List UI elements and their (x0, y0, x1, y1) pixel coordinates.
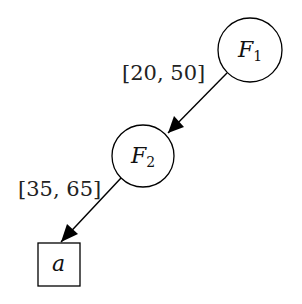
leaf-node-a: a (38, 243, 80, 286)
node-f2: F2 (112, 125, 174, 187)
leaf-node-a-label: a (52, 251, 65, 276)
edge-label-f2-a: [35, 65] (18, 177, 101, 201)
node-f2-label: F (130, 143, 147, 168)
edge-f1-f2: [20, 50] (122, 61, 227, 133)
node-f1: F1 (218, 18, 282, 82)
node-f1-label: F (237, 37, 254, 62)
decision-tree-diagram: [20, 50] [35, 65] F1 F2 a (0, 0, 302, 304)
edge-label-f1-f2: [20, 50] (122, 61, 205, 85)
edge-f2-a: [35, 65] (18, 177, 121, 242)
